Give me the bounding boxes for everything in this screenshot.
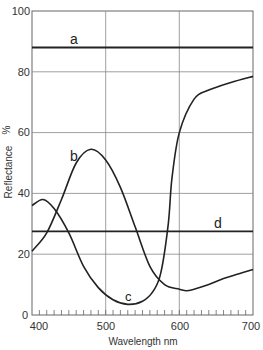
y-tick-0: 0 — [22, 309, 28, 321]
y-axis-title: Reflectance — [3, 145, 14, 198]
y-tick-40: 40 — [18, 187, 30, 199]
x-tick-400: 400 — [30, 320, 48, 332]
label-b: b — [70, 148, 78, 164]
label-a: a — [70, 31, 78, 47]
y-tick-20: 20 — [18, 248, 30, 260]
plot-frame — [32, 11, 253, 315]
y-tick-60: 60 — [18, 126, 30, 138]
reflectance-chart: 0 20 40 60 80 100 400 500 600 700 Wavele… — [0, 0, 263, 350]
svg-text:%: % — [1, 125, 12, 134]
y-tick-80: 80 — [18, 66, 30, 78]
x-minor-ticks — [39, 310, 245, 315]
label-c: c — [125, 289, 132, 304]
x-tick-600: 600 — [171, 320, 189, 332]
y-axis-unit: % — [1, 125, 12, 134]
x-tick-700: 700 — [242, 320, 260, 332]
y-tick-labels: 0 20 40 60 80 100 — [12, 5, 30, 321]
label-d: d — [214, 215, 222, 231]
curves — [32, 47, 253, 304]
x-axis-title: Wavelength nm — [108, 336, 177, 347]
y-tick-100: 100 — [12, 5, 30, 17]
svg-text:Reflectance: Reflectance — [3, 145, 14, 198]
x-tick-500: 500 — [97, 320, 115, 332]
x-gridlines — [106, 11, 180, 315]
x-tick-labels: 400 500 600 700 — [30, 320, 260, 332]
